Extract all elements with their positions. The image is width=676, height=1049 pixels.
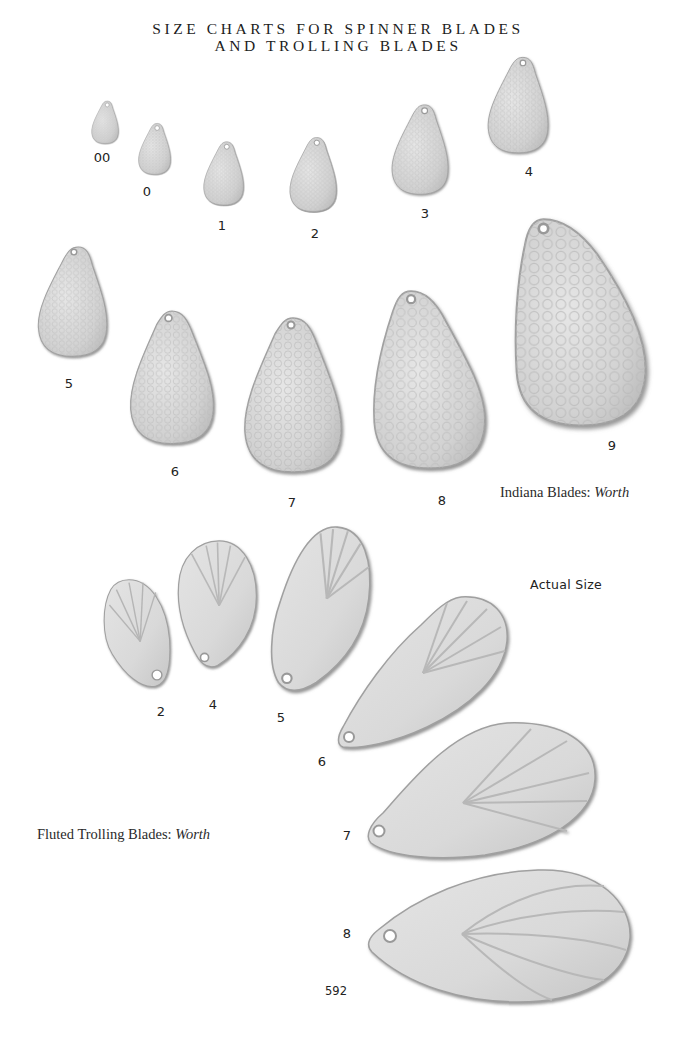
fluted-blade-7 <box>367 721 597 861</box>
fluted-size-label: 2 <box>157 704 165 719</box>
indiana-blades-caption: Indiana Blades: Worth <box>500 484 629 501</box>
fluted-size-label: 6 <box>318 754 326 769</box>
fluted-size-label: 8 <box>343 926 351 941</box>
caption-prefix: Indiana Blades: <box>500 484 594 500</box>
indiana-blade-1 <box>203 138 244 208</box>
indiana-blade-5 <box>37 236 108 366</box>
fluted-blade-4 <box>177 527 258 681</box>
indiana-blade-3 <box>391 101 449 197</box>
caption-maker: Worth <box>175 826 210 842</box>
title-line-2: AND TROLLING BLADES <box>0 37 676 54</box>
indiana-size-label: 1 <box>218 218 226 233</box>
indiana-blade-00 <box>90 100 120 144</box>
indiana-blade-8 <box>372 277 487 480</box>
fluted-size-label: 4 <box>209 697 217 712</box>
actual-size-note: Actual Size <box>530 577 602 592</box>
fluted-blade-2 <box>101 577 171 689</box>
indiana-size-label: 8 <box>438 493 446 508</box>
fluted-size-label: 5 <box>277 710 285 725</box>
indiana-blade-7 <box>243 305 343 483</box>
indiana-size-label: 00 <box>94 150 111 165</box>
indiana-blade-2 <box>289 132 337 216</box>
caption-prefix: Fluted Trolling Blades: <box>37 826 175 842</box>
indiana-size-label: 6 <box>171 464 179 479</box>
indiana-size-label: 4 <box>525 164 533 179</box>
page-number: 592 <box>325 984 347 998</box>
indiana-size-label: 5 <box>65 376 73 391</box>
indiana-size-label: 7 <box>288 495 296 510</box>
indiana-blade-9 <box>514 210 648 432</box>
indiana-size-label: 9 <box>608 438 616 453</box>
fluted-size-label: 7 <box>343 828 351 843</box>
indiana-blade-4 <box>487 51 549 158</box>
page-title: SIZE CHARTS FOR SPINNER BLADES AND TROLL… <box>0 20 676 54</box>
indiana-blade-0 <box>138 121 171 176</box>
fluted-blades-caption: Fluted Trolling Blades: Worth <box>37 826 210 843</box>
indiana-size-label: 3 <box>421 206 429 221</box>
fluted-blade-8 <box>368 868 632 1004</box>
title-line-1: SIZE CHARTS FOR SPINNER BLADES <box>0 20 676 37</box>
caption-maker: Worth <box>594 484 629 500</box>
indiana-size-label: 2 <box>311 226 319 241</box>
indiana-blade-6 <box>129 299 215 454</box>
indiana-size-label: 0 <box>143 184 151 199</box>
